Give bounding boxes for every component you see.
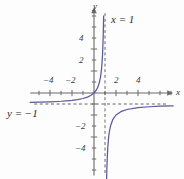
y-tick-label-pos4: 4 [79, 34, 84, 43]
x-tick-label-neg2: −2 [65, 76, 76, 85]
axes [30, 7, 173, 175]
graph-figure: y x x = 1 y = −1 −4 −2 2 4 4 2 −2 −4 [0, 0, 184, 179]
vertical-asymptote-label: x = 1 [111, 14, 134, 25]
right-branch [106, 106, 173, 179]
y-tick-label-neg2: −2 [75, 122, 86, 131]
left-branch [30, 16, 103, 102]
y-axis-label: y [93, 2, 97, 11]
x-axis-label: x [176, 88, 180, 97]
x-tick-label-pos2: 2 [114, 76, 119, 85]
horizontal-asymptote-label: y = −1 [7, 108, 38, 119]
function-curves [30, 16, 173, 179]
y-tick-label-pos2: 2 [79, 56, 84, 65]
x-tick-label-neg4: −4 [43, 76, 54, 85]
x-tick-label-pos4: 4 [136, 76, 141, 85]
y-tick-label-neg4: −4 [75, 144, 86, 153]
asymptote-lines [34, 13, 167, 175]
coordinate-plot [0, 0, 184, 179]
